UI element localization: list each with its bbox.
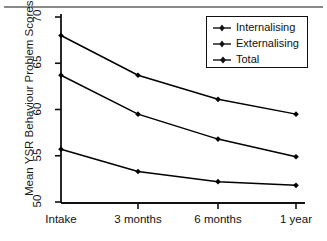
legend-label: Total: [236, 54, 259, 65]
legend-marker-icon: [212, 23, 232, 33]
legend-item-internalising: Internalising: [212, 20, 295, 35]
data-point-marker: [215, 179, 221, 185]
data-point-marker: [58, 146, 64, 152]
chart-figure: Mean YSR Behaviour Problem Scores 706560…: [0, 0, 327, 241]
y-tick-label: 70: [31, 2, 43, 30]
legend-item-total: Total: [212, 52, 259, 67]
data-point-marker: [293, 111, 299, 117]
data-point-marker: [58, 33, 64, 39]
x-tick-label: 6 months: [176, 213, 260, 225]
series-line-internalising: [61, 149, 296, 185]
data-point-marker: [215, 97, 221, 103]
data-point-marker: [293, 183, 299, 189]
data-point-marker: [293, 154, 299, 160]
data-point-marker: [135, 72, 141, 78]
data-point-marker: [58, 72, 64, 78]
data-point-marker: [215, 136, 221, 142]
y-tick-label: 60: [31, 95, 43, 123]
y-tick-label: 55: [31, 141, 43, 169]
legend-marker-icon: [212, 39, 232, 49]
y-tick-label: 65: [31, 48, 43, 76]
x-tick-label: 3 months: [96, 213, 180, 225]
legend-marker-icon: [212, 55, 232, 65]
chart-legend: Internalising Externalising Total: [206, 16, 308, 68]
data-point-marker: [135, 169, 141, 175]
x-tick-label: 1 year: [254, 213, 327, 225]
y-tick-label: 50: [31, 187, 43, 215]
legend-label: Internalising: [236, 22, 295, 33]
data-point-marker: [135, 111, 141, 117]
x-tick-label: Intake: [19, 213, 103, 225]
legend-label: Externalising: [236, 38, 299, 49]
legend-item-externalising: Externalising: [212, 36, 299, 51]
